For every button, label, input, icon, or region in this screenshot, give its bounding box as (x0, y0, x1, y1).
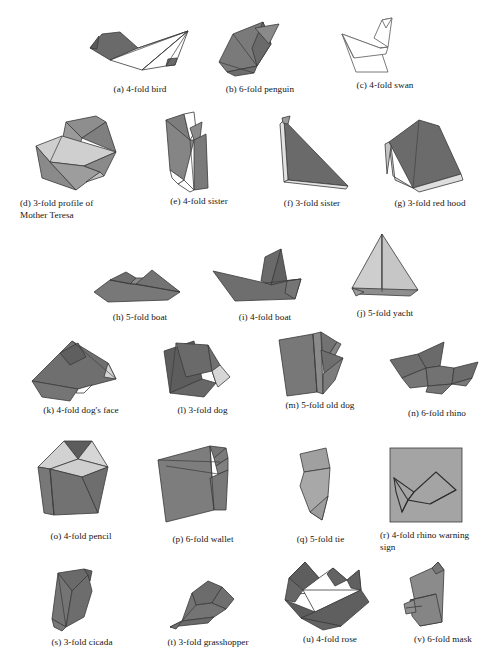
figure-s-artwork (22, 565, 142, 635)
figure-r-caption-line1: (r) 4-fold rhino warning (380, 530, 486, 542)
figure-n-rhino: (n) 6-fold rhino (382, 338, 492, 408)
figure-j-artwork (330, 230, 440, 310)
figure-q-caption: (q) 5-fold tie (268, 534, 373, 546)
figure-d-caption-line2: Mother Teresa (20, 210, 140, 222)
figure-f-artwork (262, 112, 362, 196)
figure-v-artwork (392, 560, 497, 636)
figure-m-old-dog: (m) 5-fold old dog (265, 330, 375, 408)
figure-l-artwork (150, 335, 255, 407)
figure-b-artwork (205, 14, 315, 80)
figure-f-caption: (f) 3-fold sister (262, 198, 362, 210)
figure-t-caption: (t) 3-fold grasshopper (146, 637, 270, 649)
figure-d-artwork (20, 112, 142, 198)
figure-p-wallet: (p) 6-fold wallet (148, 440, 258, 530)
figure-h-boat: (h) 5-fold boat (80, 250, 200, 310)
figure-b-penguin: (b) 6-fold penguin (205, 14, 315, 80)
figure-v-mask: (v) 6-fold mask (392, 560, 497, 636)
figure-r-caption: (r) 4-fold rhino warning sign (380, 530, 486, 553)
origami-figure-plate: (a) 4-fold bird (b) 6-fold penguin (0, 0, 500, 667)
figure-n-caption: (n) 6-fold rhino (382, 408, 492, 420)
figure-b-caption: (b) 6-fold penguin (205, 84, 315, 96)
figure-e-sister: (e) 4-fold sister (150, 110, 245, 198)
figure-o-artwork (20, 437, 142, 529)
figure-r-artwork (380, 442, 490, 530)
figure-p-caption: (p) 6-fold wallet (148, 534, 258, 546)
figure-m-artwork (265, 330, 375, 408)
figure-r-rhino-warning-sign: (r) 4-fold rhino warning sign (380, 442, 490, 530)
figure-c-caption: (c) 4-fold swan (330, 80, 440, 92)
figure-u-artwork (275, 556, 385, 636)
figure-c-swan: (c) 4-fold swan (330, 10, 440, 80)
figure-i-boat: (i) 4-fold boat (205, 243, 325, 310)
figure-a-caption: (a) 4-fold bird (80, 84, 200, 96)
figure-o-caption: (o) 4-fold pencil (20, 531, 142, 543)
figure-u-rose: (u) 4-fold rose (275, 556, 385, 636)
figure-d-mother-teresa: (d) 3-fold profile of Mother Teresa (20, 112, 142, 198)
figure-g-artwork (375, 112, 485, 196)
figure-j-caption: (j) 5-fold yacht (330, 308, 440, 320)
figure-t-artwork (148, 575, 268, 635)
figure-g-caption: (g) 3-fold red hood (375, 198, 485, 210)
figure-q-artwork (268, 440, 373, 532)
figure-r-caption-line2: sign (380, 542, 486, 554)
figure-g-red-hood: (g) 3-fold red hood (375, 112, 485, 196)
figure-q-tie: (q) 5-fold tie (268, 440, 373, 532)
figure-c-artwork (330, 10, 440, 80)
figure-d-caption: (d) 3-fold profile of Mother Teresa (20, 198, 140, 221)
figure-n-artwork (382, 338, 492, 408)
figure-v-caption: (v) 6-fold mask (388, 634, 498, 646)
figure-j-yacht: (j) 5-fold yacht (330, 230, 440, 310)
figure-s-caption: (s) 3-fold cicada (22, 637, 142, 649)
figure-t-grasshopper: (t) 3-fold grasshopper (148, 575, 268, 635)
figure-e-caption: (e) 4-fold sister (146, 196, 252, 208)
figure-a-bird: (a) 4-fold bird (80, 18, 200, 80)
figure-s-cicada: (s) 3-fold cicada (22, 565, 142, 635)
figure-d-caption-line1: (d) 3-fold profile of (20, 198, 140, 210)
figure-h-artwork (80, 250, 200, 310)
figure-u-caption: (u) 4-fold rose (275, 634, 385, 646)
figure-k-dogs-face: (k) 4-fold dog's face (20, 335, 142, 407)
figure-k-caption: (k) 4-fold dog's face (20, 405, 142, 417)
figure-p-artwork (148, 440, 258, 530)
figure-m-caption: (m) 5-fold old dog (263, 400, 377, 412)
figure-f-sister: (f) 3-fold sister (262, 112, 362, 196)
figure-l-caption: (l) 3-fold dog (150, 405, 255, 417)
figure-e-artwork (150, 110, 245, 198)
figure-a-artwork (80, 18, 200, 80)
figure-l-dog: (l) 3-fold dog (150, 335, 255, 407)
figure-i-artwork (205, 243, 325, 310)
figure-o-pencil: (o) 4-fold pencil (20, 437, 142, 529)
figure-h-caption: (h) 5-fold boat (80, 312, 200, 324)
figure-i-caption: (i) 4-fold boat (205, 312, 325, 324)
figure-k-artwork (20, 335, 142, 407)
